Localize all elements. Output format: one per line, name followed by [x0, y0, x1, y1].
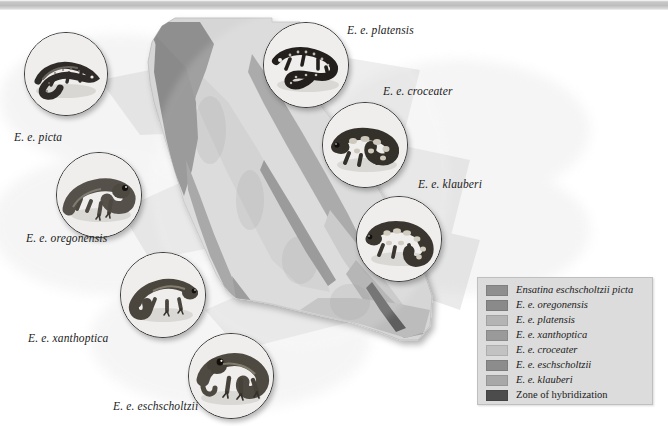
legend-swatch-picta: [486, 285, 508, 296]
legend-swatch-croceater: [486, 345, 508, 356]
legend-panel: Ensatina eschscholtzii picta E. e. orego…: [477, 277, 653, 405]
legend-item-klauberi: E. e. klauberi: [486, 373, 652, 388]
salamander-illustration-xanthoptica: [121, 253, 205, 337]
legend-label-hybridization: Zone of hybridization: [516, 390, 608, 401]
salamander-illustration-croceater: [323, 103, 407, 187]
specimen-label-klauberi: E. e. klauberi: [418, 178, 482, 190]
specimen-photo-croceater[interactable]: [322, 102, 408, 188]
legend-swatch-platensis: [486, 315, 508, 326]
specimen-label-croceater: E. e. croceater: [383, 85, 453, 97]
legend-swatch-hybridization: [486, 390, 508, 401]
legend-swatch-oregonensis: [486, 300, 508, 311]
legend-swatch-eschscholtzii: [486, 360, 508, 371]
specimen-label-eschscholtzii: E. e. eschscholtzii: [113, 400, 198, 412]
specimen-photo-xanthoptica[interactable]: [120, 252, 206, 338]
top-banner: [0, 0, 668, 10]
top-banner-text: [150, 0, 450, 2]
specimen-photo-klauberi[interactable]: [356, 196, 442, 282]
specimen-label-picta: E. e. picta: [14, 131, 62, 143]
legend-item-eschscholtzii: E. e. eschscholtzii: [486, 358, 652, 373]
salamander-illustration-oregonensis: [57, 153, 141, 237]
legend-label-picta: Ensatina eschscholtzii picta: [516, 285, 633, 296]
legend-item-picta: Ensatina eschscholtzii picta: [486, 283, 652, 298]
legend-item-oregonensis: E. e. oregonensis: [486, 298, 652, 313]
specimen-photo-oregonensis[interactable]: [56, 152, 142, 238]
salamander-illustration-picta: [25, 33, 107, 115]
legend-label-croceater: E. e. croceater: [516, 345, 577, 356]
salamander-illustration-klauberi: [357, 197, 441, 281]
salamander-illustration-platensis: [264, 23, 348, 107]
legend-item-platensis: E. e. platensis: [486, 313, 652, 328]
salamander-illustration-eschscholtzii: [189, 334, 273, 418]
legend-item-hybridization: Zone of hybridization: [486, 388, 652, 403]
legend-item-croceater: E. e. croceater: [486, 343, 652, 358]
specimen-label-oregonensis: E. e. oregonensis: [26, 232, 107, 244]
specimen-label-xanthoptica: E. e. xanthoptica: [28, 332, 108, 344]
legend-label-platensis: E. e. platensis: [516, 315, 575, 326]
specimen-photo-eschscholtzii[interactable]: [188, 333, 274, 419]
legend-label-xanthoptica: E. e. xanthoptica: [516, 330, 587, 341]
legend-swatch-klauberi: [486, 375, 508, 386]
legend-label-klauberi: E. e. klauberi: [516, 375, 573, 386]
specimen-label-platensis: E. e. platensis: [347, 24, 414, 36]
legend-swatch-xanthoptica: [486, 330, 508, 341]
specimen-photo-platensis[interactable]: [263, 22, 349, 108]
legend-item-xanthoptica: E. e. xanthoptica: [486, 328, 652, 343]
specimen-photo-picta[interactable]: [24, 32, 108, 116]
legend-label-oregonensis: E. e. oregonensis: [516, 300, 588, 311]
legend-rows: Ensatina eschscholtzii picta E. e. orego…: [478, 278, 652, 403]
legend-label-eschscholtzii: E. e. eschscholtzii: [516, 360, 591, 371]
ensatina-distribution-figure: E. e. picta E. e. oregonensis: [0, 0, 668, 426]
